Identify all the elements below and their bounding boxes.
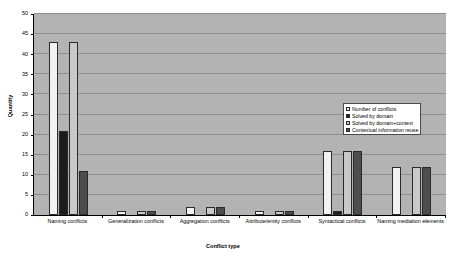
bar [79,171,88,215]
y-tick-mark [31,34,33,35]
y-tick-mark [31,155,33,156]
legend-item: Solved by domain [346,113,418,119]
bar-group [34,14,103,215]
x-tick-label: Aggregation conflicts [170,218,239,224]
y-tick-mark [31,135,33,136]
y-tick-label: 25 [22,112,28,117]
bar [275,211,284,215]
bar [333,211,342,215]
bar [137,211,146,215]
bar [343,151,352,215]
x-tick-label: Naming mediation elements [376,218,445,224]
y-tick-label: 40 [22,52,28,57]
bar [392,167,401,215]
x-tick-mark [308,215,309,218]
bar-group [171,14,240,215]
y-tick-label: 10 [22,172,28,177]
y-tick-mark [31,215,33,216]
bar [255,211,264,215]
legend-label: Number of conflicts [352,106,396,112]
bar [117,211,126,215]
y-tick-label: 45 [22,31,28,36]
chart-legend: Number of conflictsSolved by domainSolve… [343,103,421,135]
y-tick-mark [31,94,33,95]
bar [206,207,215,215]
x-axis-title: Conflict type [206,243,240,249]
bar-group [240,14,309,215]
y-tick-label: 15 [22,152,28,157]
legend-swatch-icon [346,121,350,125]
bar [147,211,156,215]
legend-swatch-icon [346,128,350,132]
legend-swatch-icon [346,107,350,111]
legend-label: Solved by domain+context [352,120,413,126]
legend-swatch-icon [346,114,350,118]
bar-group [103,14,172,215]
legend-item: Solved by domain+context [346,120,418,126]
legend-label: Solved by domain [352,113,393,119]
y-tick-mark [31,115,33,116]
bar [323,151,332,215]
x-tick-mark [445,215,446,218]
bar [59,131,68,215]
y-tick-mark [31,175,33,176]
x-tick-label: Naming conflicts [33,218,102,224]
bar [422,167,431,215]
y-tick-mark [31,14,33,15]
legend-item: Contextual information reuse [346,127,418,133]
y-tick-label: 20 [22,132,28,137]
y-tick-mark [31,54,33,55]
bar [186,207,195,215]
legend-item: Number of conflicts [346,106,418,112]
y-tick-label: 50 [22,11,28,16]
y-tick-label: 30 [22,92,28,97]
y-axis-tick-labels: 05101520253035404550 [0,0,32,269]
x-tick-label: Generalization conflicts [102,218,171,224]
y-tick-label: 35 [22,72,28,77]
x-tick-label: Syntactical conflicts [308,218,377,224]
y-tick-mark [31,74,33,75]
x-tick-mark [170,215,171,218]
x-tick-mark [239,215,240,218]
bar [412,167,421,215]
bar [353,151,362,215]
y-tick-mark [31,195,33,196]
x-tick-mark [376,215,377,218]
x-tick-label: Attribute/entity conflicts [239,218,308,224]
bar-chart: Quantity 05101520253035404550 Naming con… [0,0,469,269]
legend-label: Contextual information reuse [352,127,418,133]
y-tick-label: 0 [25,212,28,217]
bar [69,42,78,215]
bar [49,42,58,215]
bar [285,211,294,215]
bar [216,207,225,215]
y-tick-label: 5 [25,192,28,197]
x-tick-mark [102,215,103,218]
